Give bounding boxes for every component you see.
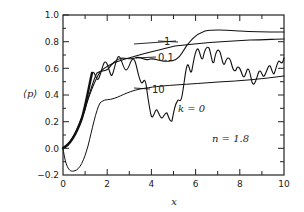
y-tick-0.2: 0.2: [45, 117, 59, 127]
y-tick-minus-0.2: −0.2: [37, 170, 59, 180]
x-tick-0: 0: [60, 179, 66, 189]
x-tick-8: 8: [237, 179, 243, 189]
y-tick-1.0: 1.0: [45, 10, 60, 20]
curve-label-0.1: 0.1: [158, 52, 174, 63]
x-tick-labels: 0 2 4 6 8 10: [60, 179, 290, 189]
x-axis-label: x: [171, 196, 177, 207]
y-tick-labels: 1.0 0.8 0.6 0.4 0.2 0.0 −0.2: [37, 10, 59, 180]
curve-label-10: 10: [152, 84, 165, 95]
x-tick-6: 6: [193, 179, 199, 189]
x-tick-4: 4: [149, 179, 155, 189]
annotation-n: n = 1.8: [212, 133, 249, 144]
curve-k-0: [63, 73, 92, 148]
curve-label-k0: k = 0: [178, 103, 206, 114]
curve-k-10: [63, 76, 284, 171]
y-tick-0.4: 0.4: [45, 90, 60, 100]
y-axis-label: ⟨p⟩: [23, 88, 37, 99]
y-tick-0.0: 0.0: [45, 144, 60, 154]
y-ticks: [63, 15, 284, 162]
curve-label-1: 1: [164, 36, 170, 47]
x-tick-2: 2: [104, 179, 110, 189]
chart: 1.0 0.8 0.6 0.4 0.2 0.0 −0.2 0 2 4 6 8 1…: [0, 0, 304, 212]
x-ticks: [85, 15, 262, 175]
plot-frame: [63, 15, 284, 175]
curve-k-0.1: [63, 30, 284, 148]
x-tick-10: 10: [278, 179, 290, 189]
y-tick-0.8: 0.8: [45, 37, 60, 47]
y-tick-0.6: 0.6: [45, 64, 60, 74]
